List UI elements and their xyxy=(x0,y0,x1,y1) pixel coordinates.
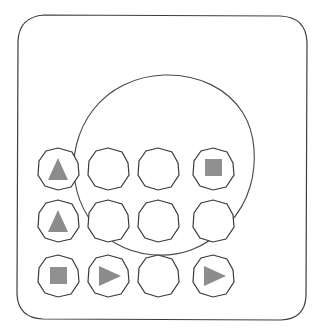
button-play-1[interactable] xyxy=(88,255,129,297)
square-stop-icon xyxy=(50,267,67,284)
button-stop-1[interactable] xyxy=(193,148,234,190)
button-blank-r2-c3-outline[interactable] xyxy=(138,200,179,242)
button-blank-r2-c3[interactable] xyxy=(138,200,179,242)
button-blank-r1-c2-outline[interactable] xyxy=(88,148,129,190)
button-blank-r1-c2[interactable] xyxy=(88,148,129,190)
square-stop-icon xyxy=(205,159,222,176)
button-stop-2[interactable] xyxy=(38,255,79,297)
button-blank-r1-c3[interactable] xyxy=(138,148,179,190)
sketch-canvas xyxy=(0,0,325,336)
button-play-2[interactable] xyxy=(193,255,234,297)
button-blank-r2-c2-outline[interactable] xyxy=(88,200,129,242)
control-panel-sketch xyxy=(0,0,325,336)
button-up-1[interactable] xyxy=(38,148,79,190)
button-blank-r1-c3-outline[interactable] xyxy=(138,148,179,190)
button-blank-r3-c3-outline[interactable] xyxy=(138,255,179,297)
button-blank-r2-c4-outline[interactable] xyxy=(193,200,234,242)
button-up-2[interactable] xyxy=(38,200,79,242)
button-blank-r2-c2[interactable] xyxy=(88,200,129,242)
button-blank-r2-c4[interactable] xyxy=(193,200,234,242)
button-blank-r3-c3[interactable] xyxy=(138,255,179,297)
